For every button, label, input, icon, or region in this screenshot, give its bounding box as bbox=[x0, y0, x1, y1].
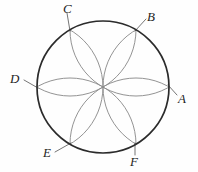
vertex-label-c: C bbox=[63, 2, 72, 15]
vertex-label-d: D bbox=[10, 72, 19, 85]
vertex-label-e: E bbox=[43, 146, 51, 159]
leader-line-e bbox=[55, 143, 71, 152]
leader-line-d bbox=[24, 80, 38, 88]
petal-arc-b bbox=[70, 0, 198, 96]
petal-arc-d bbox=[0, 21, 103, 153]
geometry-figure: A B C D E F bbox=[0, 0, 198, 172]
vertex-label-f: F bbox=[130, 155, 138, 168]
vertex-label-a: A bbox=[178, 92, 186, 105]
leader-line-b bbox=[135, 19, 146, 31]
petal-arc-e bbox=[4, 78, 136, 172]
vertex-label-b: B bbox=[147, 10, 155, 23]
leader-line-group bbox=[24, 13, 177, 155]
figure-canvas bbox=[0, 0, 198, 172]
